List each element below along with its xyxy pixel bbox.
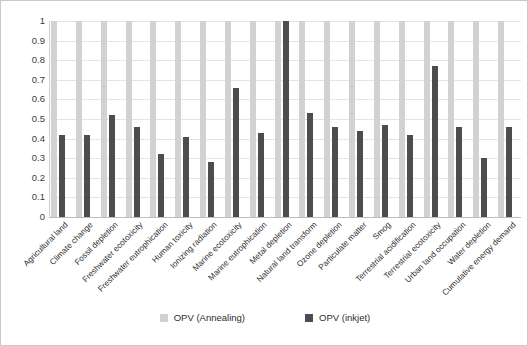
bar-inkjet — [382, 125, 388, 217]
plot-area — [49, 21, 521, 217]
chart-legend: OPV (Annealing)OPV (inkjet) — [1, 313, 528, 323]
y-axis-tick-label: 0.3 — [3, 153, 45, 163]
bar-group — [223, 21, 248, 217]
bar-group — [372, 21, 397, 217]
bar-annealing — [150, 21, 156, 217]
bar-group — [248, 21, 273, 217]
bar-annealing — [299, 21, 305, 217]
bar-annealing — [275, 21, 281, 217]
bar-group — [124, 21, 149, 217]
y-axis-tick-labels: 10.90.80.70.60.50.40.30.20.10 — [1, 21, 45, 217]
y-axis-tick-label: 1 — [3, 16, 45, 26]
bar-annealing — [250, 21, 256, 217]
y-axis-tick-label: 0.4 — [3, 134, 45, 144]
bar-annealing — [200, 21, 206, 217]
bar-inkjet — [158, 154, 164, 217]
bar-inkjet — [109, 115, 115, 217]
bars-layer — [49, 21, 521, 217]
bar-annealing — [498, 21, 504, 217]
bar-annealing — [76, 21, 82, 217]
bar-annealing — [225, 21, 231, 217]
bar-inkjet — [357, 131, 363, 217]
y-axis-tick-label: 0.2 — [3, 173, 45, 183]
bar-inkjet — [183, 137, 189, 217]
bar-annealing — [101, 21, 107, 217]
bar-inkjet — [332, 127, 338, 217]
legend-item[interactable]: OPV (inkjet) — [305, 313, 370, 323]
y-axis-tick-label: 0.8 — [3, 55, 45, 65]
x-axis-tick-label: Smog — [372, 221, 393, 242]
y-axis-tick-label: 0.6 — [3, 95, 45, 105]
bar-inkjet — [432, 66, 438, 217]
bar-annealing — [324, 21, 330, 217]
bar-inkjet — [456, 127, 462, 217]
bar-group — [496, 21, 521, 217]
bar-group — [198, 21, 223, 217]
bar-group — [273, 21, 298, 217]
bar-annealing — [349, 21, 355, 217]
y-axis-tick-label: 0.7 — [3, 75, 45, 85]
legend-label: OPV (inkjet) — [319, 313, 370, 323]
bar-group — [49, 21, 74, 217]
legend-swatch-icon — [160, 314, 168, 322]
bar-annealing — [126, 21, 132, 217]
bar-group — [99, 21, 124, 217]
bar-inkjet — [208, 162, 214, 217]
bar-annealing — [424, 21, 430, 217]
y-axis-tick-label: 0 — [3, 212, 45, 222]
bar-group — [446, 21, 471, 217]
x-axis-tick-label: Particulate matter — [317, 221, 368, 272]
bar-group — [297, 21, 322, 217]
bar-annealing — [175, 21, 181, 217]
legend-label: OPV (Annealing) — [174, 313, 245, 323]
bar-inkjet — [84, 135, 90, 217]
bar-annealing — [399, 21, 405, 217]
bar-inkjet — [407, 135, 413, 217]
bar-inkjet — [506, 127, 512, 217]
y-axis-tick-label: 0.1 — [3, 193, 45, 203]
bar-inkjet — [233, 88, 239, 217]
x-axis-category-labels: Agricultural landClimate changeFossil de… — [49, 219, 521, 305]
bar-group — [148, 21, 173, 217]
y-axis-tick-label: 0.9 — [3, 36, 45, 46]
bar-group — [173, 21, 198, 217]
bar-group — [347, 21, 372, 217]
gridline — [49, 217, 521, 218]
legend-item[interactable]: OPV (Annealing) — [160, 313, 245, 323]
bar-inkjet — [134, 127, 140, 217]
bar-group — [74, 21, 99, 217]
bar-inkjet — [258, 133, 264, 217]
bar-group — [397, 21, 422, 217]
bar-group — [322, 21, 347, 217]
bar-annealing — [374, 21, 380, 217]
legend-swatch-icon — [305, 314, 313, 322]
bar-annealing — [448, 21, 454, 217]
bar-annealing — [473, 21, 479, 217]
bar-group — [471, 21, 496, 217]
bar-annealing — [51, 21, 57, 217]
bar-chart: 10.90.80.70.60.50.40.30.20.10 Agricultur… — [0, 0, 528, 346]
y-axis-tick-label: 0.5 — [3, 114, 45, 124]
bar-inkjet — [283, 21, 289, 217]
bar-inkjet — [307, 113, 313, 217]
bar-inkjet — [59, 135, 65, 217]
bar-group — [422, 21, 447, 217]
bar-inkjet — [481, 158, 487, 217]
